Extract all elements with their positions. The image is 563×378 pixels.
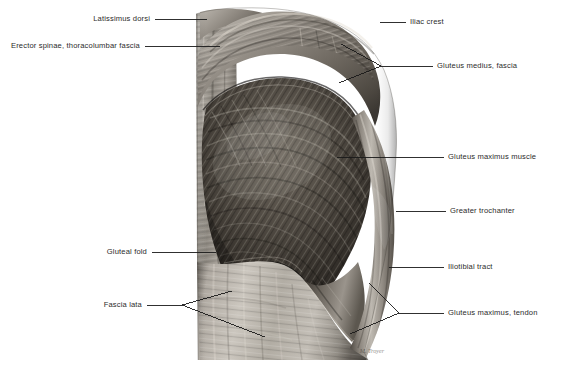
label-gluteal-fold[interactable]: Gluteal fold [107,248,147,256]
label-iliac-crest[interactable]: Iliac crest [410,18,444,26]
label-gluteus-maximus-muscle[interactable]: Gluteus maximus muscle [448,153,536,161]
label-fascia-lata[interactable]: Fascia lata [104,301,142,309]
specimen-body: M. Troyer [190,0,400,378]
artist-signature: M. Troyer [359,347,385,354]
label-greater-trochanter[interactable]: Greater trochanter [450,207,515,215]
label-gluteus-maximus-tendon[interactable]: Gluteus maximus, tendon [448,309,538,317]
label-gluteus-medius-fascia[interactable]: Gluteus medius, fascia [437,62,517,70]
label-erector-spinae[interactable]: Erector spinae, thoracolumbar fascia [11,42,140,50]
label-latissimus-dorsi[interactable]: Latissimus dorsi [93,15,150,23]
anatomical-illustration: M. Troyer [0,0,563,378]
label-iliotibial-tract[interactable]: Iliotibial tract [448,263,493,271]
gluteal-region-drawing: M. Troyer [0,0,563,378]
